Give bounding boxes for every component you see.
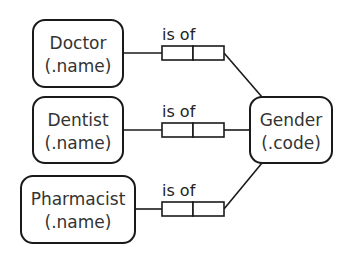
fact-reading: is of xyxy=(162,181,196,200)
entity-doctor[interactable]: Doctor (.name) xyxy=(33,20,123,87)
fact-type-dentist-gender[interactable]: is of xyxy=(162,102,224,137)
entity-box xyxy=(21,176,135,243)
entity-ref-mode: (.name) xyxy=(45,56,112,76)
role-box-right[interactable] xyxy=(193,46,224,60)
entity-dentist[interactable]: Dentist (.name) xyxy=(33,97,123,163)
role-box-right[interactable] xyxy=(193,202,224,216)
entity-ref-mode: (.code) xyxy=(261,133,321,153)
entity-box xyxy=(33,97,123,163)
fact-type-doctor-gender[interactable]: is of xyxy=(162,25,224,60)
entity-name: Doctor xyxy=(50,33,107,53)
connector-role-gender-1 xyxy=(224,53,262,97)
fact-reading: is of xyxy=(162,25,196,44)
fact-reading: is of xyxy=(162,102,196,121)
orm-diagram: Doctor (.name) Dentist (.name) Pharmacis… xyxy=(0,0,354,260)
connector-role-gender-3 xyxy=(224,163,262,209)
entity-name: Dentist xyxy=(47,110,109,130)
role-box-left[interactable] xyxy=(162,123,193,137)
entity-gender[interactable]: Gender (.code) xyxy=(250,97,332,163)
role-box-right[interactable] xyxy=(193,123,224,137)
fact-type-pharmacist-gender[interactable]: is of xyxy=(162,181,224,216)
entity-pharmacist[interactable]: Pharmacist (.name) xyxy=(21,176,135,243)
entity-box xyxy=(250,97,332,163)
entity-box xyxy=(33,20,123,87)
role-box-left[interactable] xyxy=(162,202,193,216)
entity-name: Pharmacist xyxy=(31,189,126,209)
entity-ref-mode: (.name) xyxy=(45,212,112,232)
entity-ref-mode: (.name) xyxy=(45,133,112,153)
entity-name: Gender xyxy=(260,110,323,130)
role-box-left[interactable] xyxy=(162,46,193,60)
